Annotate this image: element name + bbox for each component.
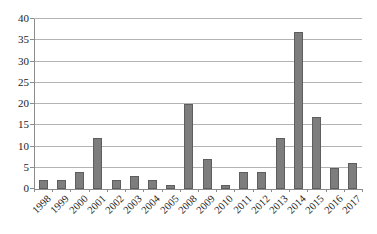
- x-axis-tick-label-2013: 2013: [267, 193, 290, 216]
- y-axis-tick-label-10: 10: [5, 140, 29, 152]
- gridline-20: [34, 103, 362, 104]
- y-axis-tick-label-15: 15: [5, 118, 29, 130]
- bar-2009: [203, 159, 212, 189]
- x-axis-tick-label-2014: 2014: [285, 193, 308, 216]
- x-axis-tick-label-2010: 2010: [212, 193, 235, 216]
- x-axis-tick-label-2001: 2001: [85, 193, 108, 216]
- bar-2012: [257, 172, 266, 189]
- x-axis-tick-label-2002: 2002: [103, 193, 126, 216]
- x-axis-tick-label-2012: 2012: [249, 193, 272, 216]
- x-axis-tick-label-2016: 2016: [322, 193, 345, 216]
- bar-2011: [239, 172, 248, 189]
- y-axis-tick-label-40: 40: [5, 12, 29, 24]
- bar-chart: 0510152025303540199819992000200120022003…: [0, 0, 377, 234]
- gridline-25: [34, 82, 362, 83]
- bar-2016: [330, 168, 339, 189]
- x-axis-tick-label-2008: 2008: [176, 193, 199, 216]
- x-axis-tick-label-2003: 2003: [121, 193, 144, 216]
- bar-2002: [112, 180, 121, 189]
- x-axis-tick-label-2011: 2011: [231, 193, 253, 215]
- bar-2017: [348, 163, 357, 189]
- gridline-30: [34, 61, 362, 62]
- bar-2003: [130, 176, 139, 189]
- bar-2008: [184, 104, 193, 189]
- gridline-40: [34, 18, 362, 19]
- x-axis-tick-label-2017: 2017: [340, 193, 363, 216]
- y-axis-tick-label-35: 35: [5, 33, 29, 45]
- x-axis-tick-label-2009: 2009: [194, 193, 217, 216]
- x-axis-tick-18: [362, 189, 363, 192]
- x-axis-tick-label-2004: 2004: [140, 193, 163, 216]
- x-axis-tick-label-2000: 2000: [67, 193, 90, 216]
- y-axis-tick-label-0: 0: [5, 182, 29, 194]
- y-axis-tick-label-20: 20: [5, 97, 29, 109]
- y-axis-tick-label-25: 25: [5, 76, 29, 88]
- bar-2014: [294, 32, 303, 189]
- x-axis-tick-label-1998: 1998: [30, 193, 53, 216]
- y-axis-line: [34, 19, 35, 189]
- y-axis-tick-label-5: 5: [5, 161, 29, 173]
- bar-1998: [39, 180, 48, 189]
- bar-2000: [75, 172, 84, 189]
- bar-2015: [312, 117, 321, 189]
- bar-2013: [276, 138, 285, 189]
- bar-2001: [93, 138, 102, 189]
- x-axis-tick-label-2005: 2005: [158, 193, 181, 216]
- bar-1999: [57, 180, 66, 189]
- bar-2004: [148, 180, 157, 189]
- x-axis-tick-label-2015: 2015: [304, 193, 327, 216]
- x-axis-line: [34, 189, 362, 190]
- x-axis-tick-label-1999: 1999: [48, 193, 71, 216]
- gridline-35: [34, 39, 362, 40]
- y-axis-tick-label-30: 30: [5, 55, 29, 67]
